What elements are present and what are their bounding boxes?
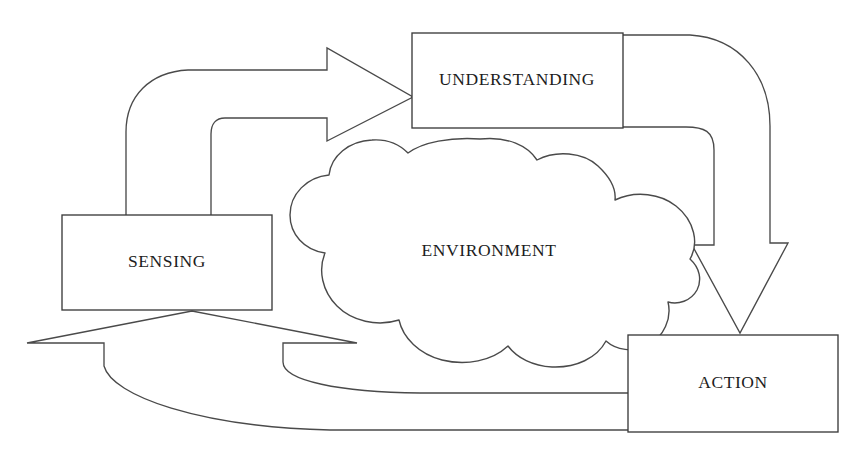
node-sensing-label: SENSING bbox=[128, 251, 206, 271]
diagram-canvas: ENVIRONMENT UNDERSTANDING SENSING ACTION bbox=[0, 0, 861, 460]
node-understanding-label: UNDERSTANDING bbox=[439, 69, 595, 89]
node-action-label: ACTION bbox=[698, 372, 768, 392]
node-environment-label: ENVIRONMENT bbox=[422, 240, 557, 260]
diagram-root: ENVIRONMENT UNDERSTANDING SENSING ACTION bbox=[0, 0, 861, 460]
